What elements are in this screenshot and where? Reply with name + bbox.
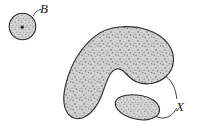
figure-canvas: B X bbox=[0, 0, 208, 134]
small-disk-center-dot bbox=[21, 26, 24, 29]
small-oval-region-X-shape bbox=[115, 95, 159, 120]
small-disk-B-group bbox=[9, 13, 36, 40]
leader-to-large-region bbox=[167, 77, 177, 99]
label-small-disk-b: B bbox=[40, 2, 48, 15]
label-region-x: X bbox=[176, 100, 184, 113]
